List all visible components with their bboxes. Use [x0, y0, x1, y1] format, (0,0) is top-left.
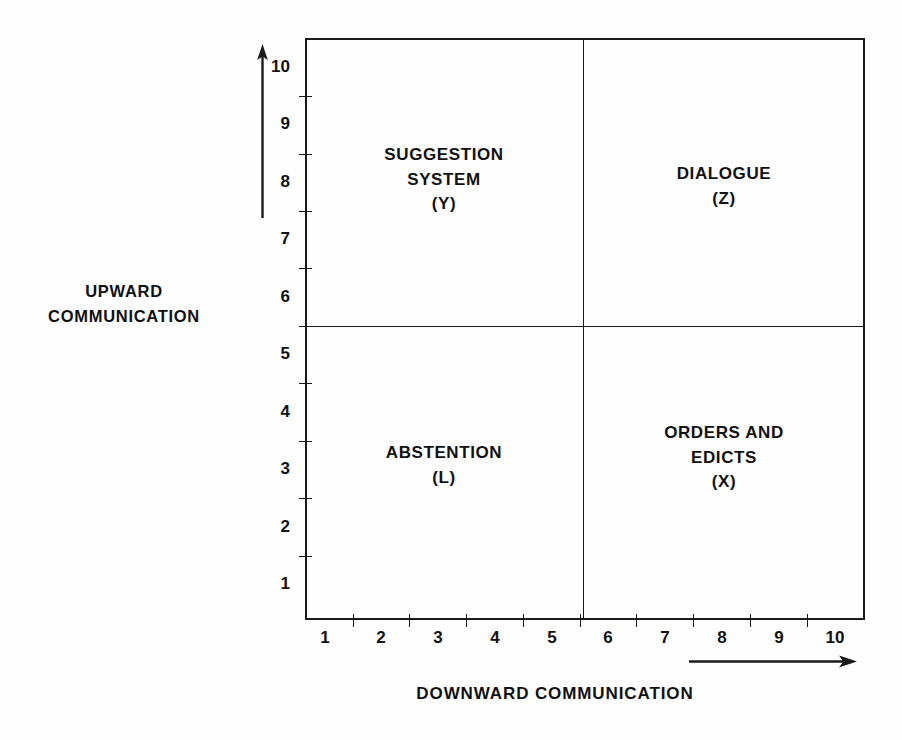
y-axis-tick	[299, 154, 312, 155]
quadrant-label-abstention: ABSTENTION (L)	[305, 441, 583, 490]
quadrant-label-suggestion-system: SUGGESTION SYSTEM (Y)	[305, 143, 583, 217]
quadrant-label-dialogue: DIALOGUE (Z)	[583, 162, 865, 211]
y-axis-tick	[299, 211, 312, 212]
y-axis-tick	[299, 441, 312, 442]
y-axis-tick-label: 6	[248, 287, 290, 307]
y-axis-tick-label: 7	[248, 229, 290, 249]
vertical-divider-line	[583, 38, 584, 620]
arrow-up-icon	[257, 44, 268, 218]
x-axis-tick-label: 1	[297, 628, 353, 648]
x-axis-tick-label: 8	[694, 628, 750, 648]
x-axis-tick-label: 5	[524, 628, 580, 648]
x-axis-tick	[353, 614, 354, 627]
x-axis-tick-label: 4	[467, 628, 523, 648]
y-axis-tick-label: 9	[248, 114, 290, 134]
y-axis-tick	[299, 383, 312, 384]
y-axis-tick-label: 10	[248, 57, 290, 77]
y-axis-title: UPWARD COMMUNICATION	[8, 279, 240, 329]
y-axis-tick-label: 5	[248, 344, 290, 364]
x-axis-tick	[580, 614, 581, 627]
horizontal-divider-line	[305, 326, 865, 327]
x-axis-tick-label: 7	[637, 628, 693, 648]
x-axis-tick-label: 9	[751, 628, 807, 648]
communication-matrix-figure: SUGGESTION SYSTEM (Y) DIALOGUE (Z) ABSTE…	[0, 0, 902, 740]
y-axis-tick	[299, 96, 312, 97]
x-axis-tick	[523, 614, 524, 627]
y-axis-tick-label: 3	[248, 459, 290, 479]
y-axis-tick	[299, 326, 312, 327]
y-axis-tick-label: 2	[248, 517, 290, 537]
x-axis-tick-label: 10	[807, 628, 863, 648]
arrow-right-icon	[689, 655, 857, 668]
y-axis-tick	[299, 268, 312, 269]
y-axis-tick	[299, 498, 312, 499]
x-axis-tick	[636, 614, 637, 627]
x-axis-tick	[466, 614, 467, 627]
y-axis-tick	[299, 556, 312, 557]
x-axis-tick	[807, 614, 808, 627]
x-axis-tick-label: 6	[580, 628, 636, 648]
x-axis-tick	[750, 614, 751, 627]
x-axis-tick-label: 2	[353, 628, 409, 648]
x-axis-tick-label: 3	[410, 628, 466, 648]
plot-frame	[305, 38, 865, 620]
quadrant-label-orders-and-edicts: ORDERS AND EDICTS (X)	[583, 421, 865, 495]
x-axis-tick	[693, 614, 694, 627]
y-axis-tick-label: 1	[248, 574, 290, 594]
y-axis-tick-label: 4	[248, 402, 290, 422]
x-axis-tick	[409, 614, 410, 627]
y-axis-tick-label: 8	[248, 172, 290, 192]
x-axis-title: DOWNWARD COMMUNICATION	[355, 684, 755, 704]
